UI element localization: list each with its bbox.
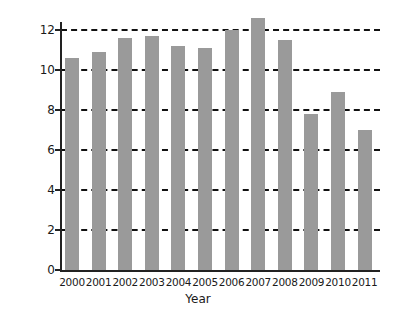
bar-2010 [331,92,345,270]
bar-2004 [171,46,185,270]
x-axis-tick-label: 2011 [349,277,381,288]
y-axis-tick-label: 6 [33,144,55,156]
bar-chart-figure: Production of Columbian Coffee (in milli… [0,0,396,314]
y-axis-tick-label: 12 [33,24,55,36]
bar-2006 [225,30,239,270]
bar-2005 [198,48,212,270]
bar-2003 [145,36,159,270]
y-axis-tick-label: 2 [33,224,55,236]
y-axis-tick-label: 0 [33,264,55,276]
y-axis-tick-labels: 024681012 [33,0,55,314]
y-axis-line [60,22,62,272]
bar-2000 [65,58,79,270]
gridline [61,69,380,71]
bar-2007 [251,18,265,270]
bar-2001 [92,52,106,270]
y-axis-tick-label: 4 [33,184,55,196]
y-axis-tick-label: 8 [33,104,55,116]
bar-2011 [358,130,372,270]
x-axis-line [60,270,380,272]
bar-2002 [118,38,132,270]
bar-2009 [304,114,318,270]
x-axis-tick-labels: 2000200120022003200420052006200720082009… [0,277,396,291]
gridline [61,29,380,31]
y-axis-tick-label: 10 [33,64,55,76]
bar-2008 [278,40,292,270]
x-axis-title: Year [0,292,396,306]
